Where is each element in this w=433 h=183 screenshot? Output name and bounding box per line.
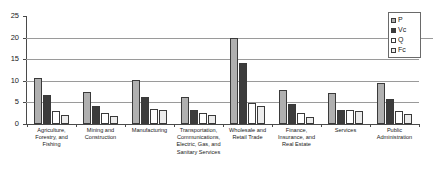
y-axis-tick-label: 5 [15, 98, 19, 106]
legend-item-vc[interactable]: Vc [391, 25, 418, 35]
x-axis-category-label: Agriculture,Forestry, andFishing [27, 127, 76, 181]
x-axis-tick-mark [419, 124, 420, 127]
bar-fc[interactable] [257, 106, 265, 124]
legend-item-label: Fc [398, 46, 406, 54]
bar-p[interactable] [279, 90, 287, 124]
x-axis-category-labels: Agriculture,Forestry, andFishingMining a… [27, 127, 419, 181]
bar-vc[interactable] [43, 95, 51, 124]
legend-item-label: P [398, 16, 403, 24]
category-label-line: Electric, Gas, and [175, 141, 222, 148]
bar-p[interactable] [34, 78, 42, 124]
bar-fc[interactable] [110, 116, 118, 124]
category-label-line: Fishing [28, 141, 75, 148]
x-axis-category-label: PublicAdministration [370, 127, 419, 181]
x-axis-category-label: Services [321, 127, 370, 181]
bar-vc[interactable] [239, 63, 247, 124]
bar-fc[interactable] [61, 115, 69, 124]
y-axis-tick-label: 20 [11, 34, 19, 42]
category-label-line: Communications, [175, 134, 222, 141]
category-label-line: Agriculture, [28, 127, 75, 134]
legend-connector-right-line [421, 38, 433, 39]
y-axis-tick-label: 10 [11, 77, 19, 85]
y-axis-tick-label: 0 [15, 120, 19, 128]
bar-group-bars [230, 16, 265, 124]
x-axis-tick-mark [272, 124, 273, 127]
chart-legend: PVcQFc [388, 12, 421, 58]
bar-group [223, 16, 272, 124]
bar-vc[interactable] [386, 99, 394, 124]
x-axis-tick-mark [76, 124, 77, 127]
bar-group-bars [132, 16, 167, 124]
bar-group [174, 16, 223, 124]
legend-item-q[interactable]: Q [391, 35, 418, 45]
x-axis-tick-mark [370, 124, 371, 127]
bar-q[interactable] [101, 113, 109, 124]
category-label-line: Finance, [273, 127, 320, 134]
series-q-swatch [391, 38, 396, 43]
category-label-line: Manufacturing [126, 127, 173, 134]
x-axis-category-label: Mining andConstruction [76, 127, 125, 181]
category-label-line: Insurance, and [273, 134, 320, 141]
category-label-line: Services [322, 127, 369, 134]
bar-p[interactable] [83, 92, 91, 124]
legend-item-label: Q [398, 36, 403, 44]
bar-fc[interactable] [306, 117, 314, 124]
bar-group [27, 16, 76, 124]
bar-p[interactable] [132, 80, 140, 124]
bar-q[interactable] [248, 103, 256, 124]
bar-group [76, 16, 125, 124]
x-axis-tick-mark [174, 124, 175, 127]
legend-item-p[interactable]: P [391, 15, 418, 25]
category-label-line: Administration [371, 134, 418, 141]
legend-item-fc[interactable]: Fc [391, 45, 418, 55]
category-label-line: Transportation, [175, 127, 222, 134]
bar-q[interactable] [395, 111, 403, 124]
bar-vc[interactable] [141, 97, 149, 124]
bar-fc[interactable] [159, 110, 167, 124]
x-axis-category-label: Wholesale andRetail Trade [223, 127, 272, 181]
category-label-line: Sanitary Services [175, 149, 222, 156]
category-label-line: Construction [77, 134, 124, 141]
bar-vc[interactable] [92, 106, 100, 124]
x-axis-tick-mark [27, 124, 28, 127]
bar-p[interactable] [328, 93, 336, 124]
bar-group-bars [328, 16, 363, 124]
y-axis-labels: 0510152025 [0, 0, 24, 183]
bar-group [125, 16, 174, 124]
legend-connector-left-line [372, 38, 388, 39]
series-vc-swatch [391, 28, 396, 33]
category-label-line: Wholesale and [224, 127, 271, 134]
x-axis-category-label: Finance,Insurance, andReal Estate [272, 127, 321, 181]
category-label-line: Forestry, and [28, 134, 75, 141]
bar-groups [27, 16, 419, 124]
legend-item-label: Vc [398, 26, 406, 34]
bar-fc[interactable] [404, 114, 412, 124]
bar-q[interactable] [52, 111, 60, 124]
bar-chart: 0510152025 Agriculture,Forestry, andFish… [0, 0, 433, 183]
bar-p[interactable] [181, 97, 189, 124]
bar-group-bars [83, 16, 118, 124]
bar-group [321, 16, 370, 124]
bar-q[interactable] [297, 113, 305, 124]
bar-p[interactable] [377, 83, 385, 124]
bar-q[interactable] [199, 113, 207, 124]
bar-vc[interactable] [288, 104, 296, 124]
series-p-swatch [391, 18, 396, 23]
bar-fc[interactable] [208, 115, 216, 124]
y-axis-tick-label: 15 [11, 55, 19, 63]
bar-vc[interactable] [190, 110, 198, 124]
series-fc-swatch [391, 48, 396, 53]
category-label-line: Retail Trade [224, 134, 271, 141]
bar-group-bars [181, 16, 216, 124]
bar-q[interactable] [150, 109, 158, 124]
bar-p[interactable] [230, 38, 238, 124]
bar-fc[interactable] [355, 111, 363, 124]
x-axis-tick-mark [223, 124, 224, 127]
bar-group [272, 16, 321, 124]
x-axis-tick-mark [321, 124, 322, 127]
category-label-line: Real Estate [273, 141, 320, 148]
bar-q[interactable] [346, 110, 354, 124]
bar-vc[interactable] [337, 110, 345, 124]
category-label-line: Public [371, 127, 418, 134]
bar-group-bars [34, 16, 69, 124]
